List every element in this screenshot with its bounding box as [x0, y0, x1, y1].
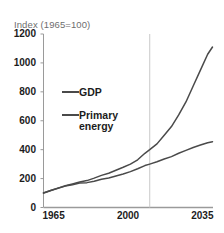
series-line-gdp [44, 47, 213, 193]
y-tick-label-800: 800 [2, 87, 36, 97]
legend-swatches [62, 92, 79, 115]
x-tick-label-2000: 2000 [117, 211, 139, 221]
axes-group [41, 34, 214, 208]
series-lines-group [44, 47, 213, 193]
series-line-primary-energy [44, 142, 213, 193]
y-tick-label-200: 200 [2, 174, 36, 184]
legend-label-gdp: GDP [79, 87, 102, 99]
y-tick-label-0: 0 [2, 203, 36, 213]
legend-label-primary-energy-line2: energy [79, 121, 113, 133]
y-tick-label-400: 400 [2, 145, 36, 155]
x-tick-label-2035: 2035 [191, 211, 213, 221]
x-tick-label-1965: 1965 [43, 211, 65, 221]
y-tick-label-1200: 1200 [2, 29, 36, 39]
y-tick-label-600: 600 [2, 116, 36, 126]
y-tick-label-1000: 1000 [2, 58, 36, 68]
chart-container: Index (1965=100) 020040060080010001200 1… [0, 0, 224, 233]
